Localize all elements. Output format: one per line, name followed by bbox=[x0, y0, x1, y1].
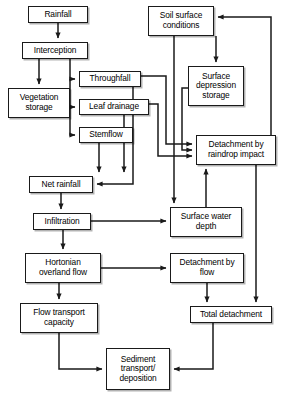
edge-interception-leafdrainage bbox=[70, 79, 75, 107]
node-label: Interception bbox=[34, 46, 77, 56]
node-label: Detachment by raindrop impact bbox=[208, 140, 264, 159]
node-label: Total detachment bbox=[200, 310, 262, 320]
node-hortonian-overland-flow: Hortonian overland flow bbox=[25, 253, 101, 283]
node-vegetation-storage: Vegetation storage bbox=[8, 88, 70, 118]
node-detachment-by-flow: Detachment by flow bbox=[170, 253, 244, 283]
node-label: Vegetation storage bbox=[20, 93, 59, 112]
node-label: Flow transport capacity bbox=[33, 308, 85, 327]
node-leaf-drainage: Leaf drainage bbox=[79, 99, 149, 115]
node-label: Surface water depth bbox=[181, 212, 231, 231]
node-throughfall: Throughfall bbox=[79, 71, 141, 87]
node-stemflow: Stemflow bbox=[79, 127, 133, 143]
node-label: Throughfall bbox=[90, 74, 131, 84]
edge-interception-stemflow bbox=[70, 107, 75, 135]
node-surface-depression-storage: Surface depression storage bbox=[188, 66, 244, 106]
edge-flowtransport-sediment bbox=[59, 333, 102, 369]
node-label: Stemflow bbox=[89, 130, 123, 140]
node-label: Rainfall bbox=[44, 10, 71, 20]
node-label: Infiltration bbox=[44, 217, 79, 227]
node-interception: Interception bbox=[22, 42, 88, 59]
node-detachment-by-raindrop-impact: Detachment by raindrop impact bbox=[196, 135, 276, 165]
node-label: Sediment transport/ deposition bbox=[119, 355, 156, 384]
node-label: Leaf drainage bbox=[89, 102, 139, 112]
node-infiltration: Infiltration bbox=[33, 213, 91, 230]
flowchart-edges bbox=[0, 0, 290, 397]
node-sediment-transport-deposition: Sediment transport/ deposition bbox=[106, 348, 170, 390]
node-label: Surface depression storage bbox=[196, 72, 236, 101]
edge-totaldetachment-sediment bbox=[174, 323, 213, 369]
node-total-detachment: Total detachment bbox=[190, 306, 272, 323]
node-label: Net rainfall bbox=[42, 180, 81, 190]
edge-interception-throughfall bbox=[70, 59, 75, 79]
node-label: Hortonian overland flow bbox=[39, 258, 87, 277]
edge-leafdrainage-detachraindrop bbox=[149, 104, 192, 156]
node-net-rainfall: Net rainfall bbox=[29, 176, 93, 193]
node-surface-water-depth: Surface water depth bbox=[170, 207, 242, 237]
node-label: Soil surface conditions bbox=[160, 11, 203, 30]
node-rainfall: Rainfall bbox=[28, 6, 88, 23]
node-soil-surface-conditions: Soil surface conditions bbox=[148, 6, 214, 36]
node-label: Detachment by flow bbox=[179, 258, 234, 277]
node-flow-transport-capacity: Flow transport capacity bbox=[20, 303, 98, 333]
flowchart-diagram: Rainfall Interception Vegetation storage… bbox=[0, 0, 290, 397]
